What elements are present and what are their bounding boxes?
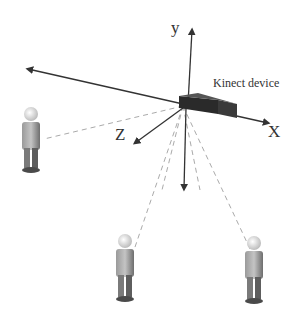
y-axis	[188, 30, 192, 104]
person-icon-bottom-left	[116, 234, 134, 302]
kinect-device-icon	[179, 93, 237, 118]
person-icon-left	[22, 107, 40, 173]
z-axis-label: Z	[115, 125, 125, 145]
kinect-coordinate-diagram: y X Z Kinect device	[0, 0, 302, 316]
sight-lines	[44, 106, 251, 251]
person-icon-bottom-right	[245, 236, 263, 304]
x-axis-left	[28, 69, 183, 104]
z-axis	[135, 108, 183, 143]
down-axis	[184, 108, 186, 189]
kinect-device-label: Kinect device	[213, 76, 279, 91]
x-axis-label: X	[268, 122, 280, 142]
y-axis-label: y	[171, 18, 180, 38]
diagram-svg	[0, 0, 302, 316]
